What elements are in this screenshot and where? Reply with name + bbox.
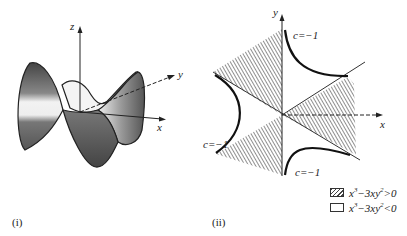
legend-item-negative: x3−3xy2<0 <box>330 201 397 214</box>
legend-label-positive: x3−3xy2>0 <box>349 186 397 199</box>
y-axis-label-3d: y <box>178 68 183 80</box>
z-axis-label: z <box>70 20 74 32</box>
hatched-swatch-icon <box>330 188 344 197</box>
monkey-saddle-surface <box>18 63 144 167</box>
shaded-regions <box>213 29 356 175</box>
panel-ii-caption: (ii) <box>212 216 225 228</box>
curve-label-left: c=−1 <box>203 138 228 150</box>
blank-swatch-icon <box>330 203 344 212</box>
legend-label-negative: x3−3xy2<0 <box>349 201 397 214</box>
panel-i-caption: (i) <box>12 216 22 228</box>
x-axis-label: x <box>380 118 385 130</box>
x-axis-label-3d: x <box>157 121 162 133</box>
curve-label-top: c=−1 <box>293 29 318 41</box>
y-axis-label: y <box>273 6 278 18</box>
curve-label-bottom: c=−1 <box>295 166 320 178</box>
legend-item-positive: x3−3xy2>0 <box>330 186 397 199</box>
